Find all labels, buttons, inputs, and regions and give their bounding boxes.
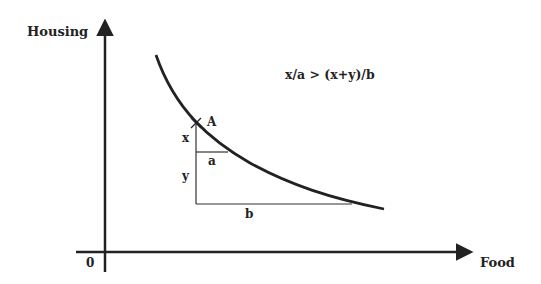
label-x: x	[182, 132, 189, 144]
label-b: b	[245, 208, 253, 220]
x-axis-label: Food	[480, 256, 515, 269]
origin-label: 0	[86, 257, 94, 269]
point-a-label: A	[207, 116, 216, 128]
diagram-canvas	[0, 0, 541, 284]
y-axis-label: Housing	[27, 25, 88, 38]
label-y: y	[182, 170, 189, 182]
inequality-text: x/a > (x+y)/b	[285, 69, 375, 82]
label-a: a	[208, 155, 216, 167]
